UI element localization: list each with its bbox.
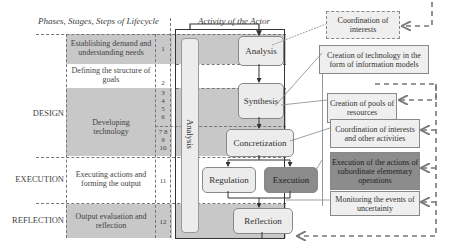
- flow-arrow: [259, 160, 290, 166]
- leader-line: [272, 24, 326, 45]
- feedback-line: [403, 2, 432, 26]
- flow-arrow: [228, 191, 290, 198]
- leader-line: [290, 128, 330, 141]
- feedback-line: [298, 84, 436, 236]
- flow-arrow: [228, 155, 259, 166]
- leader-line: [311, 160, 322, 178]
- feedback-line: [375, 84, 436, 100]
- leader-line: [275, 53, 322, 106]
- flow-arrow: [190, 24, 259, 35]
- connector-layer: [0, 0, 457, 252]
- leader-line: [281, 100, 327, 105]
